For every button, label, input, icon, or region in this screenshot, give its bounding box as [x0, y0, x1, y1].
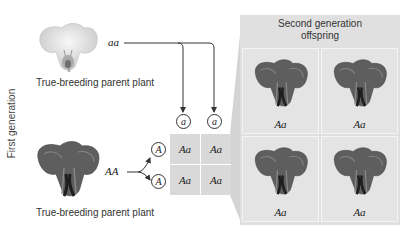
AA-arrow-down — [138, 172, 150, 180]
offspring-genotype: Aa — [321, 206, 398, 218]
punnett-square: Aa Aa Aa Aa — [170, 134, 231, 195]
aa-arrow-left — [124, 43, 183, 112]
offspring-panel-title: Second generation offspring — [240, 15, 400, 46]
gamete-A-2: A — [151, 174, 166, 189]
offspring-grid: Aa Aa Aa — [242, 48, 398, 223]
AA-arrow-up — [127, 158, 150, 172]
gamete-a-1: a — [176, 114, 191, 129]
title-line-1: Second generation — [240, 18, 400, 30]
punnett-cell: Aa — [201, 165, 231, 195]
offspring-panel: Second generation offspring Aa Aa — [240, 15, 400, 225]
gamete-A-1: A — [151, 142, 166, 157]
purple-flower-icon — [331, 144, 389, 200]
offspring-cell: Aa — [242, 136, 319, 222]
purple-flower-icon — [252, 144, 310, 200]
purple-flower-icon — [331, 56, 389, 112]
offspring-cell: Aa — [242, 48, 319, 134]
purple-flower-icon — [252, 56, 310, 112]
offspring-genotype: Aa — [242, 118, 319, 130]
punnett-cell: Aa — [170, 165, 200, 195]
offspring-genotype: Aa — [242, 206, 319, 218]
punnett-cell: Aa — [170, 134, 200, 164]
offspring-genotype: Aa — [321, 118, 398, 130]
offspring-cell: Aa — [321, 136, 398, 222]
punnett-cell: Aa — [201, 134, 231, 164]
title-line-2: offspring — [240, 30, 400, 42]
offspring-cell: Aa — [321, 48, 398, 134]
